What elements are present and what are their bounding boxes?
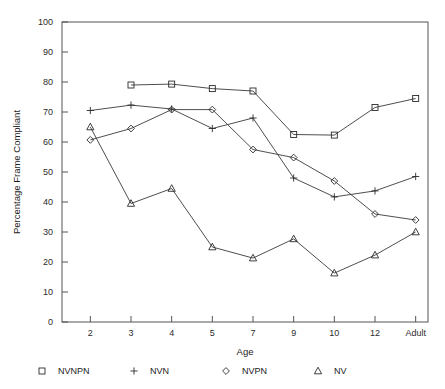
y-axis-tick-label: 0	[48, 317, 53, 327]
y-axis-tick-label: 30	[43, 227, 53, 237]
cropped-header-text	[0, 0, 445, 2]
line-chart: 0102030405060708090100Percentage Frame C…	[0, 0, 445, 389]
series-line-nvpn	[90, 110, 415, 220]
legend-label-nv: NV	[334, 366, 347, 376]
y-axis-tick-label: 70	[43, 107, 53, 117]
y-axis-tick-label: 20	[43, 257, 53, 267]
legend-item-nvn[interactable]: NVN	[130, 366, 169, 376]
legend-marker-square-icon	[39, 368, 45, 374]
x-axis-tick-label: 9	[291, 328, 296, 338]
x-axis-tick-label: 12	[370, 328, 380, 338]
x-axis-tick-label: 3	[128, 328, 133, 338]
legend-label-nvnpn: NVNPN	[58, 366, 90, 376]
plot-frame	[62, 22, 428, 322]
y-axis-tick-label: 90	[43, 47, 53, 57]
y-axis-title: Percentage Frame Compliant	[11, 110, 22, 234]
y-axis-tick-label: 60	[43, 137, 53, 147]
legend-item-nv[interactable]: NV	[314, 366, 346, 376]
series-nvn	[87, 102, 420, 201]
data-point-nv	[168, 185, 175, 192]
legend-label-nvn: NVN	[150, 366, 169, 376]
y-axis: 0102030405060708090100	[38, 17, 68, 327]
x-axis-tick-label: 2	[88, 328, 93, 338]
x-axis-tick-label: 7	[250, 328, 255, 338]
x-axis-tick-label: 5	[210, 328, 215, 338]
legend-item-nvnpn[interactable]: NVNPN	[39, 366, 90, 376]
y-axis-tick-label: 50	[43, 167, 53, 177]
y-axis-tick-label: 100	[38, 17, 53, 27]
y-axis-tick-label: 40	[43, 197, 53, 207]
x-axis-tick-label: 4	[169, 328, 174, 338]
legend-marker-diamond-icon	[223, 368, 230, 375]
data-point-nv	[87, 123, 94, 130]
legend: NVNPNNVNNVPNNV	[39, 366, 347, 376]
chart-canvas: 0102030405060708090100Percentage Frame C…	[0, 0, 445, 389]
x-axis: 2345791012Adult	[88, 316, 427, 338]
legend-marker-triangle-icon	[314, 367, 321, 374]
legend-label-nvpn: NVPN	[242, 366, 267, 376]
x-axis-tick-label: 10	[329, 328, 339, 338]
legend-item-nvpn[interactable]: NVPN	[223, 366, 267, 376]
x-axis-title: Age	[237, 346, 254, 357]
y-axis-tick-label: 80	[43, 77, 53, 87]
x-axis-tick-label: Adult	[405, 328, 426, 338]
series-nvpn	[87, 106, 419, 223]
y-axis-tick-label: 10	[43, 287, 53, 297]
